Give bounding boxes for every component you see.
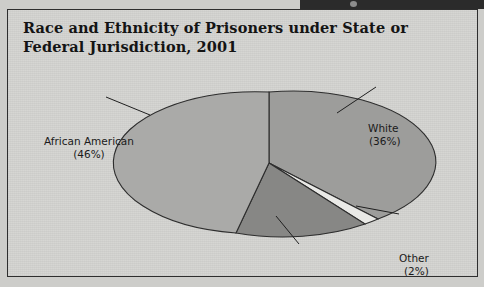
page-header-strip	[300, 0, 484, 9]
pie-slice-african-american[interactable]	[113, 92, 269, 233]
pie-label-white-value: (36%)	[368, 135, 401, 148]
figure-title: Race and Ethnicity of Prisoners under St…	[23, 18, 453, 56]
page-header-dot-icon	[350, 1, 357, 7]
pie-label-african-american: African American (46%)	[44, 135, 134, 161]
pie-chart-svg	[8, 56, 476, 276]
figure-title-line-2: Jurisdiction, 2001	[90, 38, 238, 55]
figure-container: Race and Ethnicity of Prisoners under St…	[0, 0, 484, 287]
pie-label-other-value: (2%)	[399, 265, 429, 277]
pie-chart: African American (46%) White (36%) Other…	[8, 56, 476, 276]
pie-label-african-american-value: (46%)	[44, 148, 134, 161]
pie-label-white-name: White	[368, 122, 399, 134]
pie-label-other: Other (2%)	[399, 252, 429, 277]
pie-label-other-name: Other	[399, 252, 429, 264]
pie-label-white: White (36%)	[368, 122, 401, 148]
figure-frame: Race and Ethnicity of Prisoners under St…	[7, 9, 478, 277]
leader-line-african-american	[106, 97, 150, 115]
pie-label-african-american-name: African American	[44, 135, 134, 147]
